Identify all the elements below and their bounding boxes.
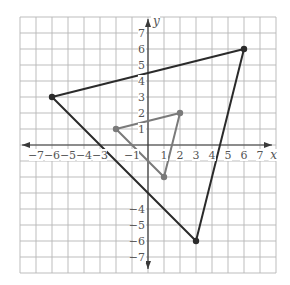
y-axis-up-arrow-icon bbox=[145, 19, 151, 27]
y-tick-label: −5 bbox=[129, 219, 145, 232]
y-tick-label: −7 bbox=[129, 251, 145, 264]
axes bbox=[22, 19, 272, 269]
x-tick-label: −5 bbox=[60, 149, 76, 162]
small-triangle-vertex bbox=[161, 174, 167, 180]
x-axis-left-arrow-icon bbox=[22, 142, 30, 148]
y-tick-label: 1 bbox=[138, 123, 145, 136]
x-tick-label: −4 bbox=[76, 149, 92, 162]
x-tick-label: 2 bbox=[177, 149, 184, 162]
tick-labels: −7−6−5−4−3−11234567x7654321−4−5−6−7y bbox=[28, 14, 279, 264]
x-tick-label: −7 bbox=[28, 149, 44, 162]
small-triangle-vertex bbox=[113, 126, 119, 132]
large-triangle-vertex bbox=[49, 94, 55, 100]
large-triangle-vertex bbox=[193, 238, 199, 244]
x-tick-label: 3 bbox=[193, 149, 200, 162]
y-tick-label: 5 bbox=[138, 59, 145, 72]
x-axis-label: x bbox=[270, 148, 277, 162]
x-tick-label: −6 bbox=[44, 149, 60, 162]
y-tick-label: 3 bbox=[138, 91, 145, 104]
coordinate-plane: −7−6−5−4−3−11234567x7654321−4−5−6−7y bbox=[0, 0, 290, 285]
x-tick-label: −3 bbox=[92, 149, 108, 162]
y-tick-label: 7 bbox=[138, 27, 145, 40]
x-tick-label: 1 bbox=[161, 149, 168, 162]
y-tick-label: 4 bbox=[138, 75, 145, 88]
large-triangle-vertex bbox=[241, 46, 247, 52]
small-triangle-vertex bbox=[177, 110, 183, 116]
x-tick-label: 4 bbox=[209, 149, 216, 162]
x-tick-label: −1 bbox=[124, 149, 140, 162]
y-tick-label: 6 bbox=[138, 43, 145, 56]
x-tick-label: 5 bbox=[225, 149, 232, 162]
y-tick-label: −4 bbox=[129, 203, 145, 216]
y-tick-label: −6 bbox=[129, 235, 145, 248]
y-tick-label: 2 bbox=[138, 107, 145, 120]
x-tick-label: 6 bbox=[241, 149, 248, 162]
x-tick-label: 7 bbox=[257, 149, 264, 162]
y-axis-label: y bbox=[152, 14, 160, 28]
